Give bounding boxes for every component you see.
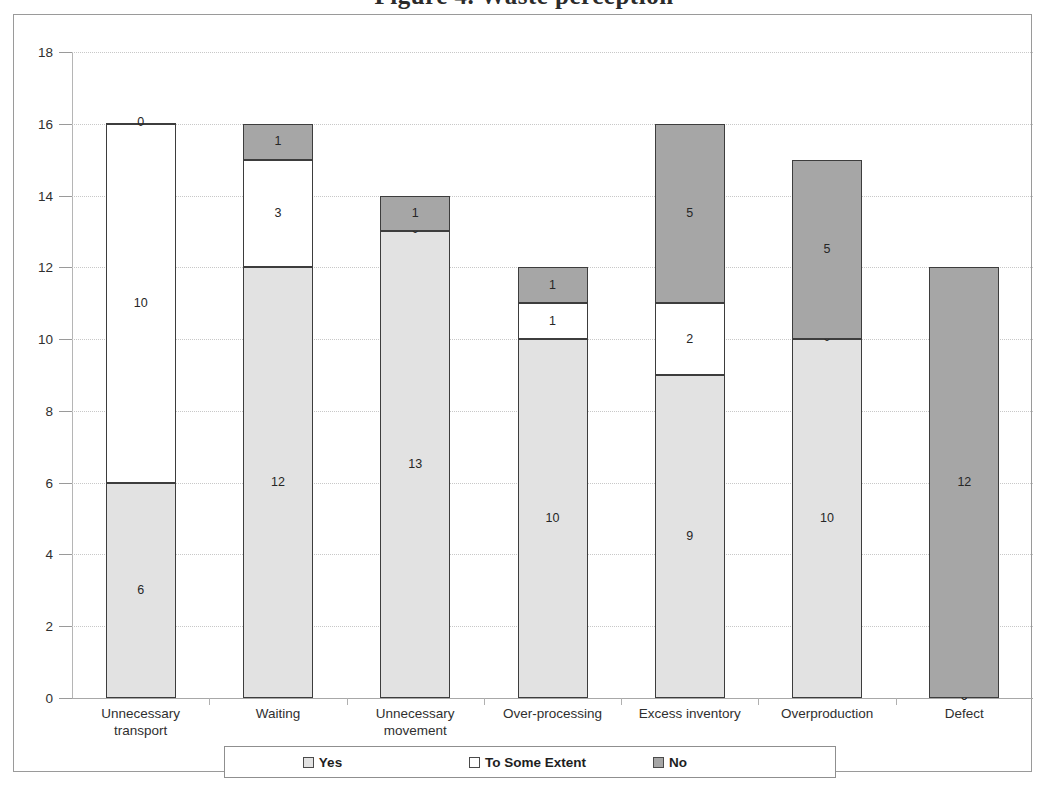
x-axis-separator: [484, 698, 485, 705]
to-some-extent-swatch: [469, 757, 480, 768]
bar-stack[interactable]: 1011: [518, 52, 588, 698]
bar-stack[interactable]: 6100: [106, 52, 176, 698]
bar-value-label: 3: [274, 207, 281, 220]
y-axis-line: [72, 52, 73, 698]
y-axis-tick-label: 16: [14, 116, 59, 131]
y-axis-tick: [59, 483, 72, 484]
bar-value-label: 5: [686, 207, 693, 220]
x-axis-category-label-line: Over-processing: [484, 705, 621, 722]
x-axis-category-label-line: Defect: [896, 705, 1033, 722]
chart-title-strip: Figure 4. Waste perception: [0, 0, 1048, 14]
legend-item-to-some-extent[interactable]: To Some Extent: [420, 755, 635, 770]
bar-segment-no[interactable]: 1: [243, 124, 313, 160]
x-axis-category-label-line: Unnecessary: [72, 705, 209, 722]
bar-stack[interactable]: 1005: [792, 52, 862, 698]
x-axis-separator: [209, 698, 210, 705]
y-axis-tick: [59, 411, 72, 412]
y-axis-tick: [59, 124, 72, 125]
bar-segment-to-some-extent[interactable]: 10: [106, 124, 176, 483]
bar-segment-no[interactable]: 0: [106, 123, 176, 124]
bar-segment-to-some-extent[interactable]: 1: [518, 303, 588, 339]
bar-value-label: 2: [686, 333, 693, 346]
bar-value-label: 1: [412, 207, 419, 220]
y-axis-tick: [59, 698, 72, 699]
bar-stack[interactable]: 925: [655, 52, 725, 698]
bar-segment-yes[interactable]: 13: [380, 231, 450, 698]
x-axis-category-label: Defect: [896, 705, 1033, 722]
yes-swatch: [303, 757, 314, 768]
y-axis-tick-label: 6: [14, 475, 59, 490]
y-axis-tick: [59, 339, 72, 340]
bar-stack[interactable]: 1301: [380, 52, 450, 698]
x-axis-separator: [621, 698, 622, 705]
x-axis-category-label: Unnecessarytransport: [72, 705, 209, 739]
bar-value-label: 12: [957, 476, 971, 489]
bar-value-label: 12: [271, 476, 285, 489]
legend-label: No: [669, 755, 687, 770]
legend-label: To Some Extent: [485, 755, 586, 770]
bar-value-label: 1: [549, 279, 556, 292]
x-axis-category-label-line: Excess inventory: [621, 705, 758, 722]
bar-segment-to-some-extent[interactable]: 2: [655, 303, 725, 375]
legend-item-no[interactable]: No: [635, 755, 835, 770]
x-axis-category-label: Over-processing: [484, 705, 621, 722]
x-axis-separator: [896, 698, 897, 705]
x-axis-category-label-line: Unnecessary: [347, 705, 484, 722]
y-axis-tick-label: 8: [14, 403, 59, 418]
x-axis-separator: [758, 698, 759, 705]
x-axis-category-label: Excess inventory: [621, 705, 758, 722]
y-axis-tick: [59, 554, 72, 555]
x-axis-category-label: Waiting: [209, 705, 346, 722]
y-axis-tick: [59, 626, 72, 627]
y-axis-tick-label: 4: [14, 547, 59, 562]
bar-segment-no[interactable]: 12: [929, 267, 999, 698]
bar-value-label: 10: [820, 512, 834, 525]
y-axis-tick: [59, 196, 72, 197]
x-axis-line: [72, 698, 1033, 699]
bar-value-label: 6: [137, 584, 144, 597]
legend-item-yes[interactable]: Yes: [225, 755, 420, 770]
legend-label: Yes: [319, 755, 342, 770]
x-axis-category-label: Overproduction: [758, 705, 895, 722]
bar-value-label: 10: [134, 297, 148, 310]
bar-value-label: 1: [549, 315, 556, 328]
bar-segment-no[interactable]: 5: [792, 160, 862, 339]
y-axis-tick-label: 12: [14, 260, 59, 275]
x-axis-category-label-line: Waiting: [209, 705, 346, 722]
y-axis-tick-label: 18: [14, 45, 59, 60]
bar-stack[interactable]: 0012: [929, 52, 999, 698]
bar-segment-no[interactable]: 1: [518, 267, 588, 303]
bar-segment-yes[interactable]: 10: [792, 339, 862, 698]
y-axis-tick-label: 0: [14, 691, 59, 706]
y-axis-tick: [59, 267, 72, 268]
chart-frame: 024681012141618 610012311301101192510050…: [13, 14, 1032, 772]
y-axis-tick-label: 14: [14, 188, 59, 203]
x-axis-category-label: Unnecessarymovement: [347, 705, 484, 739]
bar-segment-no[interactable]: 1: [380, 196, 450, 232]
x-axis-category-label-line: Overproduction: [758, 705, 895, 722]
bar-segment-yes[interactable]: 10: [518, 339, 588, 698]
bar-value-label: 13: [408, 458, 422, 471]
bar-segment-to-some-extent[interactable]: 3: [243, 160, 313, 268]
y-axis-tick-label: 2: [14, 619, 59, 634]
x-axis-separator: [347, 698, 348, 705]
page-title: Figure 4. Waste perception: [0, 0, 1048, 10]
bar-segment-yes[interactable]: 12: [243, 267, 313, 698]
bar-segment-yes[interactable]: 6: [106, 483, 176, 698]
x-axis-category-label-line: movement: [347, 722, 484, 739]
x-axis-category-label-line: transport: [72, 722, 209, 739]
bar-value-label: 10: [546, 512, 560, 525]
bar-value-label: 0: [137, 116, 144, 129]
bar-value-label: 9: [686, 530, 693, 543]
no-swatch: [653, 757, 664, 768]
bar-segment-no[interactable]: 5: [655, 124, 725, 303]
y-axis-tick: [59, 52, 72, 53]
bar-stack[interactable]: 1231: [243, 52, 313, 698]
bar-value-label: 1: [274, 135, 281, 148]
chart-legend: YesTo Some ExtentNo: [224, 746, 836, 778]
bar-value-label: 5: [824, 243, 831, 256]
y-axis-tick-label: 10: [14, 332, 59, 347]
bar-segment-yes[interactable]: 9: [655, 375, 725, 698]
